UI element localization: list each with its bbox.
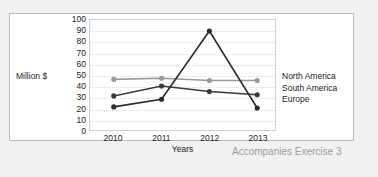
chart-legend: North AmericaSouth AmericaEurope [282, 71, 354, 106]
y-axis-tick: 40 [77, 82, 86, 91]
line-chart: Million $ 1009080706050403020100 2010201… [10, 14, 355, 142]
plot-area [89, 19, 276, 131]
y-axis-tick: 90 [77, 26, 86, 35]
y-axis-tick: 60 [77, 60, 86, 69]
page-background: Million $ 1009080706050403020100 2010201… [0, 0, 378, 177]
y-axis-tick: 0 [81, 127, 86, 136]
data-point [111, 77, 116, 82]
data-point [255, 105, 260, 110]
y-axis-tick: 80 [77, 37, 86, 46]
y-axis-tick: 70 [77, 48, 86, 57]
y-axis-tick-labels: 1009080706050403020100 [60, 19, 86, 131]
legend-entry: North America [282, 71, 354, 83]
y-axis-label: Million $ [16, 71, 47, 81]
y-axis-tick: 30 [77, 93, 86, 102]
data-point [111, 93, 116, 98]
legend-entry: Europe [282, 94, 354, 106]
data-point [207, 78, 212, 83]
data-point [207, 28, 212, 33]
x-axis-tick: 2010 [104, 133, 123, 143]
x-axis-tick: 2011 [152, 133, 170, 143]
series-line [114, 31, 257, 108]
data-point [255, 78, 260, 83]
series-line [114, 86, 257, 96]
data-point [159, 83, 164, 88]
y-axis-tick: 100 [72, 15, 86, 24]
series-layer [90, 20, 275, 130]
figure-caption: Accompanies Exercise 3 [232, 146, 342, 157]
y-axis-tick: 50 [77, 71, 86, 80]
data-point [111, 104, 116, 109]
data-point [159, 97, 164, 102]
legend-entry: South America [282, 83, 354, 95]
y-axis-tick: 20 [77, 104, 86, 113]
figure-panel: Million $ 1009080706050403020100 2010201… [9, 13, 354, 141]
data-point [255, 92, 260, 97]
data-point [207, 89, 212, 94]
x-axis-tick: 2013 [249, 133, 268, 143]
y-axis-tick: 10 [77, 116, 86, 125]
series-line [114, 78, 257, 80]
x-axis-tick: 2012 [200, 133, 219, 143]
data-point [159, 76, 164, 81]
